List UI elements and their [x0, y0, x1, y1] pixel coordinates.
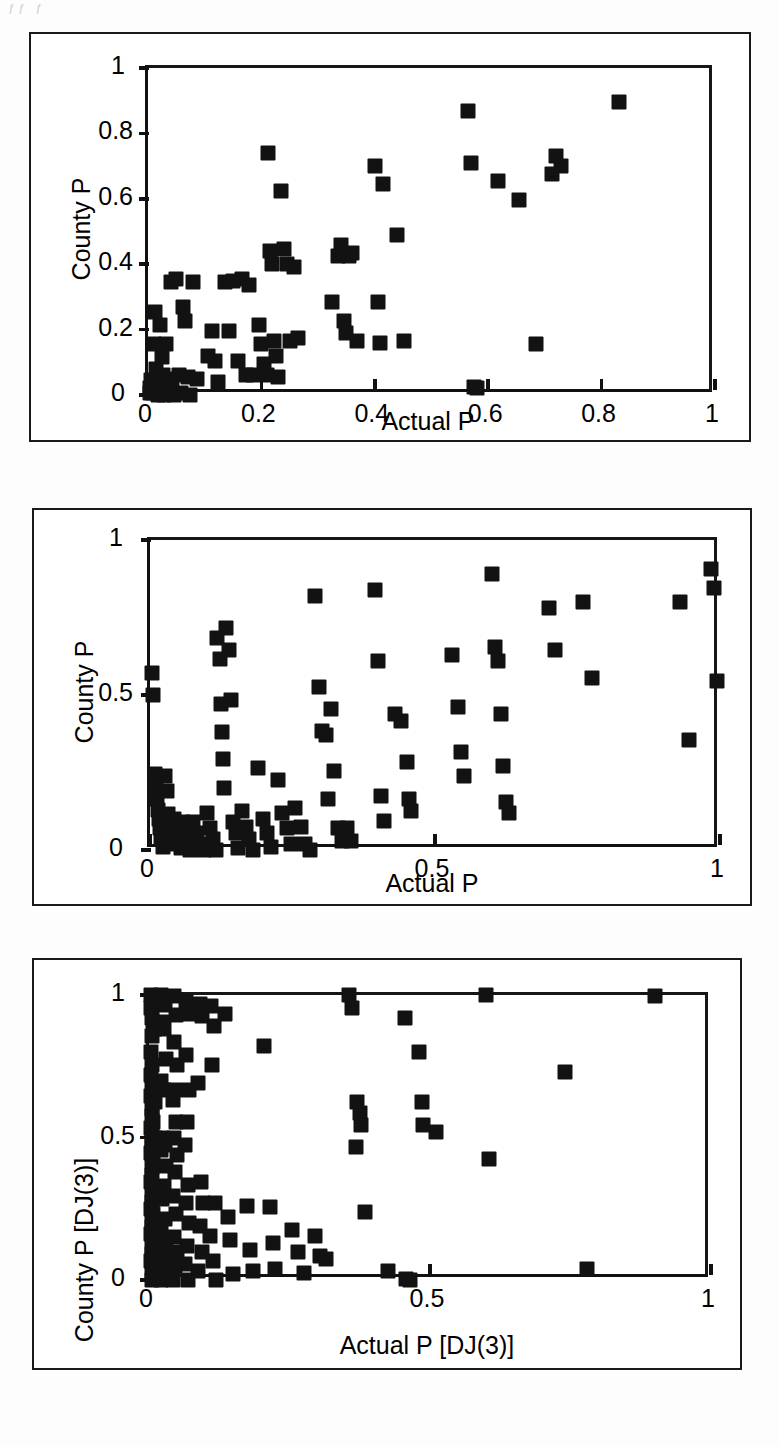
- data-point-marker: [450, 700, 465, 715]
- data-point-marker: [269, 348, 284, 363]
- x-axis-tick: [148, 834, 152, 845]
- data-point-marker: [219, 621, 234, 636]
- data-point-marker: [154, 350, 169, 365]
- data-point-marker: [547, 643, 562, 658]
- data-point-marker: [180, 1238, 195, 1253]
- data-point-marker: [245, 843, 260, 858]
- data-point-marker: [324, 701, 339, 716]
- data-point-marker: [397, 1010, 412, 1025]
- data-point-marker: [464, 155, 479, 170]
- data-point-marker: [370, 294, 385, 309]
- xtick-label: 1: [701, 1286, 715, 1311]
- xtick-label: 0: [138, 401, 152, 426]
- xtick-label: 1: [710, 856, 724, 881]
- data-point-marker: [343, 833, 358, 848]
- data-point-marker: [257, 1039, 272, 1054]
- plot-area-bottom: [146, 992, 708, 1277]
- ytick-label: 0: [111, 1265, 125, 1290]
- x-axis-tick: [718, 834, 722, 845]
- data-point-marker: [296, 1265, 311, 1280]
- data-point-marker: [399, 754, 414, 769]
- data-point-marker: [146, 688, 161, 703]
- data-point-marker: [376, 177, 391, 192]
- data-point-marker: [235, 804, 250, 819]
- data-point-marker: [308, 588, 323, 603]
- data-point-marker: [345, 245, 360, 260]
- data-point-marker: [311, 680, 326, 695]
- x-axis-title: Actual P: [381, 407, 474, 436]
- data-point-marker: [490, 653, 505, 668]
- y-axis-tick: [139, 262, 149, 266]
- data-point-marker: [251, 317, 266, 332]
- data-point-marker: [180, 1114, 195, 1129]
- data-point-marker: [302, 843, 317, 858]
- data-point-marker: [368, 582, 383, 597]
- data-point-marker: [445, 647, 460, 662]
- data-point-marker: [512, 193, 527, 208]
- ytick-label: 0.2: [98, 314, 133, 339]
- data-point-marker: [204, 324, 219, 339]
- data-point-marker: [264, 257, 279, 272]
- data-point-marker: [153, 317, 168, 332]
- data-point-marker: [223, 692, 238, 707]
- data-point-marker: [390, 227, 405, 242]
- data-point-marker: [319, 1251, 334, 1266]
- xtick-label: 0.2: [241, 401, 276, 426]
- data-point-marker: [266, 334, 281, 349]
- data-point-marker: [376, 813, 391, 828]
- ytick-label: 0.4: [98, 249, 133, 274]
- x-axis-tick: [428, 1264, 432, 1275]
- data-point-marker: [177, 1137, 192, 1152]
- ytick-label: 0.6: [98, 183, 133, 208]
- y-axis-tick: [139, 66, 149, 70]
- data-point-marker: [165, 1273, 180, 1288]
- data-point-marker: [453, 745, 468, 760]
- xtick-label: 0.5: [410, 1286, 445, 1311]
- data-point-marker: [291, 330, 306, 345]
- data-point-marker: [428, 1124, 443, 1139]
- data-point-marker: [200, 805, 215, 820]
- scan-artifact-text: ƒƒ ƒ: [8, 2, 45, 14]
- data-point-marker: [411, 1045, 426, 1060]
- data-point-marker: [580, 1261, 595, 1276]
- data-point-marker: [208, 843, 223, 858]
- data-point-marker: [318, 728, 333, 743]
- data-point-marker: [326, 763, 341, 778]
- data-point-marker: [209, 1273, 224, 1288]
- x-axis-tick: [486, 379, 490, 390]
- data-point-marker: [159, 337, 174, 352]
- data-point-marker: [259, 825, 274, 840]
- data-point-marker: [221, 643, 236, 658]
- data-point-marker: [245, 1264, 260, 1279]
- data-point-marker: [393, 714, 408, 729]
- data-point-marker: [496, 759, 511, 774]
- chart-panel-bottom: 1 0.5 0 0 0.5 1 Actual P [DJ(3)] County …: [32, 958, 742, 1370]
- x-axis-tick: [433, 834, 437, 845]
- data-point-marker: [493, 706, 508, 721]
- ytick-label: 1: [111, 980, 125, 1005]
- data-point-marker: [268, 1261, 283, 1276]
- data-point-marker: [217, 781, 232, 796]
- x-axis-tick: [600, 379, 604, 390]
- data-point-marker: [193, 1174, 208, 1189]
- data-point-marker: [241, 278, 256, 293]
- data-point-marker: [202, 1228, 217, 1243]
- data-point-marker: [294, 819, 309, 834]
- y-axis-tick: [139, 197, 149, 201]
- data-point-marker: [345, 1000, 360, 1015]
- data-point-marker: [215, 751, 230, 766]
- data-point-marker: [673, 595, 688, 610]
- data-point-marker: [169, 271, 184, 286]
- data-point-marker: [461, 103, 476, 118]
- data-point-marker: [367, 159, 382, 174]
- data-point-marker: [611, 95, 626, 110]
- xtick-label: 0.8: [581, 401, 616, 426]
- y-axis-tick: [141, 538, 151, 542]
- data-point-marker: [262, 1200, 277, 1215]
- chart-panel-middle: 1 0.5 0 0 0.5 1 Actual P County P: [32, 508, 752, 906]
- data-point-marker: [279, 821, 294, 836]
- data-point-marker: [271, 370, 286, 385]
- data-point-marker: [397, 334, 412, 349]
- data-point-marker: [157, 768, 172, 783]
- data-point-marker: [226, 1267, 241, 1282]
